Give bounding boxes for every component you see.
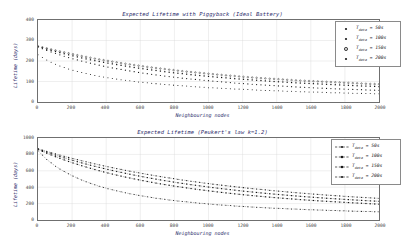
y-tick-top-1: 300	[18, 37, 34, 42]
legend-item-top-3[interactable]: Tdata = 200s	[338, 54, 397, 64]
x-tick-top-10: 2000	[370, 105, 390, 110]
legend-item-bottom-2[interactable]: Tdata = 150s	[334, 162, 397, 172]
legend-item-bottom-0[interactable]: Tdata = 50s	[334, 142, 397, 152]
legend-dashed-marker-icon	[334, 173, 350, 181]
legend-dashed-marker-icon	[334, 163, 350, 171]
y-tick-bottom-1: 800	[14, 151, 34, 156]
x-tick-bottom-3: 600	[130, 223, 150, 228]
x-tick-top-2: 400	[95, 105, 115, 110]
legend-item-top-2[interactable]: Tdata = 150s	[338, 44, 397, 54]
y-tick-bottom-3: 400	[14, 185, 34, 190]
legend-label-bottom-2: Tdata = 150s	[352, 164, 382, 170]
legend-marker-icon	[338, 55, 354, 63]
legend-label-bottom-3: Tdata = 200s	[352, 174, 382, 180]
legend-label-top-0: Tdata = 50s	[356, 26, 384, 32]
legend-item-top-1[interactable]: Tdata = 100s	[338, 34, 397, 44]
x-tick-top-1: 200	[61, 105, 81, 110]
legend-dashed-marker-icon	[334, 143, 350, 151]
legend-bottom[interactable]: Tdata = 50s Tdata = 100s Tdata = 150s Td…	[331, 139, 401, 185]
legend-label-top-3: Tdata = 200s	[356, 56, 386, 62]
chart-title-bottom: Expected Lifetime (Peukert's law k=1.2)	[0, 129, 405, 135]
chart-title-top: Expected Lifetime with Piggyback (Ideal …	[0, 11, 405, 17]
legend-label-bottom-1: Tdata = 100s	[352, 154, 382, 160]
x-tick-top-4: 800	[164, 105, 184, 110]
plot-svg-top	[38, 20, 379, 102]
x-tick-bottom-6: 1200	[233, 223, 253, 228]
legend-marker-icon	[338, 45, 354, 53]
y-tick-bottom-5: 0	[14, 217, 34, 222]
legend-dashed-marker-icon	[334, 153, 350, 161]
legend-marker-icon	[338, 25, 354, 33]
x-tick-top-7: 1400	[267, 105, 287, 110]
x-tick-top-6: 1200	[233, 105, 253, 110]
y-tick-top-3: 100	[18, 79, 34, 84]
legend-item-top-0[interactable]: Tdata = 50s	[338, 24, 397, 34]
x-tick-top-3: 600	[130, 105, 150, 110]
x-tick-top-9: 1800	[336, 105, 356, 110]
x-tick-bottom-4: 800	[164, 223, 184, 228]
legend-label-bottom-0: Tdata = 50s	[352, 144, 380, 150]
chart-panel-bottom: Expected Lifetime (Peukert's law k=1.2) …	[0, 121, 405, 242]
x-tick-bottom-8: 1600	[301, 223, 321, 228]
y-tick-bottom-2: 600	[14, 168, 34, 173]
legend-item-bottom-1[interactable]: Tdata = 100s	[334, 152, 397, 162]
x-tick-bottom-0: 0	[27, 223, 47, 228]
x-axis-label-bottom: Neighbouring nodes	[0, 230, 405, 236]
figure-container: Expected Lifetime with Piggyback (Ideal …	[0, 0, 405, 242]
legend-marker-icon	[338, 35, 354, 43]
x-tick-bottom-9: 1800	[336, 223, 356, 228]
legend-top[interactable]: Tdata = 50s Tdata = 100s Tdata = 150s Td…	[335, 21, 401, 67]
plot-svg-bottom	[38, 138, 379, 220]
x-tick-bottom-7: 1400	[267, 223, 287, 228]
x-tick-bottom-1: 200	[61, 223, 81, 228]
y-tick-bottom-0: 1000	[14, 135, 34, 140]
y-tick-top-4: 0	[18, 99, 34, 104]
y-tick-top-0: 400	[18, 17, 34, 22]
legend-label-top-2: Tdata = 150s	[356, 46, 386, 52]
legend-item-bottom-3[interactable]: Tdata = 200s	[334, 172, 397, 182]
x-tick-top-0: 0	[27, 105, 47, 110]
legend-label-top-1: Tdata = 100s	[356, 36, 386, 42]
chart-panel-top: Expected Lifetime with Piggyback (Ideal …	[0, 0, 405, 121]
x-tick-top-5: 1000	[198, 105, 218, 110]
x-tick-bottom-2: 400	[95, 223, 115, 228]
plot-area-top	[37, 19, 380, 103]
x-tick-bottom-10: 2000	[370, 223, 390, 228]
x-axis-label-top: Neighbouring nodes	[0, 112, 405, 118]
x-tick-bottom-5: 1000	[198, 223, 218, 228]
x-tick-top-8: 1600	[301, 105, 321, 110]
plot-area-bottom	[37, 137, 380, 221]
y-tick-bottom-4: 200	[14, 201, 34, 206]
y-tick-top-2: 200	[18, 58, 34, 63]
